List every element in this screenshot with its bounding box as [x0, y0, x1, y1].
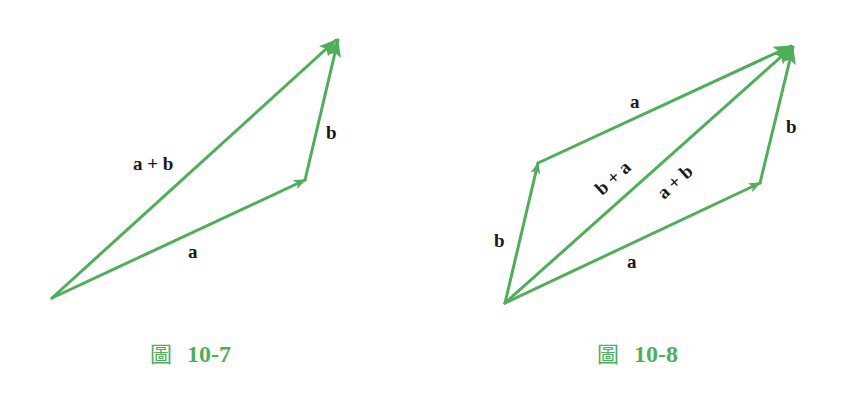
- label-b-right: b: [786, 116, 797, 137]
- caption-number: 10-7: [187, 341, 231, 367]
- caption-figure-icon: 圖: [150, 342, 172, 367]
- vector-a: [52, 180, 305, 298]
- caption-figure-icon: 圖: [597, 342, 619, 367]
- figure-10-8: a b b a b + a a + b 圖 10-8: [494, 46, 797, 367]
- vector-addition-diagrams: a + b b a 圖 10-7 a b b a b + a a + b 圖 1…: [0, 0, 841, 394]
- label-b: b: [326, 122, 337, 143]
- label-b-left: b: [494, 230, 505, 251]
- label-a-top: a: [630, 91, 640, 112]
- label-a: a: [188, 241, 198, 262]
- vector-b-right: [760, 47, 793, 183]
- label-a-plus-b: a + b: [133, 153, 173, 174]
- vector-diagonal: [505, 48, 791, 303]
- vector-a-top: [538, 46, 791, 163]
- caption-number: 10-8: [634, 341, 678, 367]
- vector-b-left: [505, 163, 538, 303]
- label-a-bottom: a: [627, 251, 637, 272]
- figure-10-7: a + b b a 圖 10-7: [52, 40, 338, 367]
- vector-b: [305, 40, 338, 180]
- vector-a-bottom: [505, 183, 760, 303]
